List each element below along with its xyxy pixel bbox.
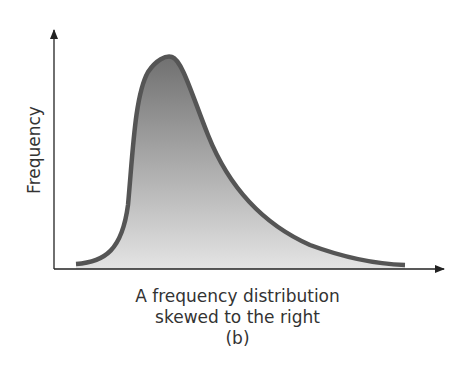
y-axis-label: Frequency [14,110,54,190]
distribution-fill [76,57,405,269]
y-axis-label-text: Frequency [24,106,44,194]
caption-line-2: skewed to the right [0,307,475,328]
caption-line-1: A frequency distribution [0,286,475,307]
panel-label: (b) [0,328,475,349]
